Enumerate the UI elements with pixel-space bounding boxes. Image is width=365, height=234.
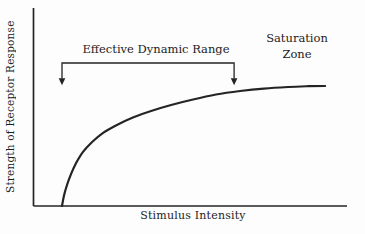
receptor-response-figure: Strength of Receptor Response Stimulus I… [0,0,365,234]
x-axis-label: Stimulus Intensity [113,209,273,222]
dynamic-range-bracket [62,63,234,79]
bracket-left-down-arrow-icon [59,78,66,85]
effective-dynamic-range-label: Effective Dynamic Range [66,42,246,56]
response-curve [62,86,325,206]
bracket-right-down-arrow-icon [231,78,238,85]
y-axis-label: Strength of Receptor Response [4,23,21,193]
saturation-zone-label: Saturation Zone [257,31,337,62]
